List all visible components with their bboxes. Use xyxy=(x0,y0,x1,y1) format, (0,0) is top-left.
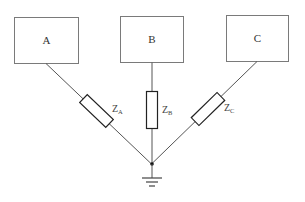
node-box-a: A xyxy=(15,18,79,64)
node-box-c: C xyxy=(227,16,289,62)
impedance-label-zc: ZC xyxy=(224,102,234,114)
node-label-c: C xyxy=(254,32,261,44)
star-network-diagram: A B C ZA ZB ZC xyxy=(0,0,305,202)
node-box-b: B xyxy=(121,17,184,63)
node-label-a: A xyxy=(43,34,51,46)
ground-icon xyxy=(142,164,162,186)
impedance-za xyxy=(80,95,114,128)
impedance-zb xyxy=(147,92,158,129)
impedance-label-zb: ZB xyxy=(162,104,173,116)
node-label-b: B xyxy=(148,33,155,45)
impedance-zc xyxy=(191,92,224,125)
impedance-label-za: ZA xyxy=(112,103,123,115)
